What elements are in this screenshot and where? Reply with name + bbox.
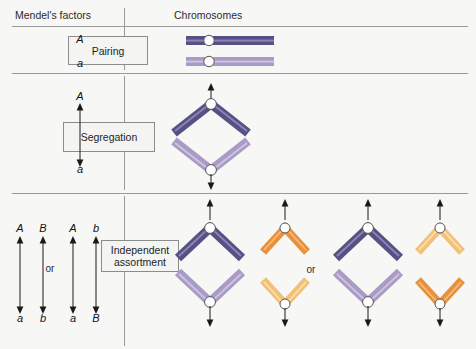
segregation-allele-top: A	[73, 90, 87, 102]
pairing-allele-bottom: a	[73, 57, 87, 69]
assortment-left-chromosome-light-orange	[263, 280, 307, 309]
stage-label-line-2: assortment	[114, 256, 166, 268]
assortment-right-arrow-up-purple	[365, 199, 372, 220]
assortment-right-arrow-up-orange	[437, 199, 444, 220]
assortment-left-arrow-up-orange	[282, 199, 289, 220]
stage-label-line-1: Independent	[111, 244, 169, 256]
assortment-factor-arrow-1	[17, 236, 24, 314]
rule-under-headers	[12, 26, 468, 27]
assortment-allele-top-1: A	[13, 222, 27, 234]
assortment-left-chromosome-dark-purple	[178, 223, 242, 258]
rule-under-pairing	[12, 73, 468, 74]
assortment-factors-or-label: or	[40, 263, 60, 274]
segregation-arrow-up	[208, 83, 215, 100]
assortment-allele-top-2: B	[36, 222, 50, 234]
assortment-allele-bottom-3: a	[66, 312, 80, 324]
segregation-chromosome-dark	[174, 99, 248, 133]
assortment-left-arrow-down-orange	[282, 308, 289, 327]
assortment-left-chromosome-dark-orange	[263, 223, 307, 252]
assortment-allele-top-3: A	[66, 222, 80, 234]
header-mendels-factors: Mendel's factors	[15, 9, 91, 21]
segregation-allele-bottom: a	[73, 163, 87, 175]
stage-box-segregation: Segregation	[63, 122, 155, 152]
rule-under-segregation	[12, 193, 468, 194]
assortment-left-chromosome-light-purple	[178, 272, 242, 307]
pairing-allele-top: A	[73, 33, 87, 45]
assortment-factor-arrow-4	[93, 236, 100, 314]
assortment-right-arrow-down-orange	[437, 308, 444, 327]
pairing-chromosome-light	[186, 56, 274, 66]
assortment-right-chromosome-light-purple	[336, 272, 400, 307]
assortment-factor-arrow-2	[40, 236, 47, 314]
segregation-arrow-down	[208, 174, 215, 190]
assortment-right-chromosome-light-orange	[418, 223, 462, 252]
assortment-allele-bottom-4: B	[89, 312, 103, 324]
stage-box-independent-assortment: Independent assortment	[101, 240, 179, 272]
assortment-right-chromosome-dark-orange	[418, 280, 462, 309]
pairing-chromosome-dark	[186, 35, 274, 45]
assortment-allele-bottom-2: b	[36, 312, 50, 324]
mendel-chromosome-diagram: Mendel's factors Chromosomes Pairing A a…	[0, 0, 476, 349]
header-chromosomes: Chromosomes	[174, 9, 242, 21]
assortment-factor-arrow-3	[70, 236, 77, 314]
assortment-allele-top-4: b	[89, 222, 103, 234]
assortment-right-arrow-down-purple	[365, 306, 372, 327]
assortment-left-arrow-up-purple	[207, 199, 214, 220]
assortment-allele-bottom-1: a	[13, 312, 27, 324]
assortment-chromosomes-or-label: or	[301, 264, 321, 275]
assortment-left-arrow-down-purple	[207, 306, 214, 327]
segregation-chromosome-light	[174, 141, 248, 175]
assortment-right-chromosome-dark-purple	[336, 223, 400, 258]
